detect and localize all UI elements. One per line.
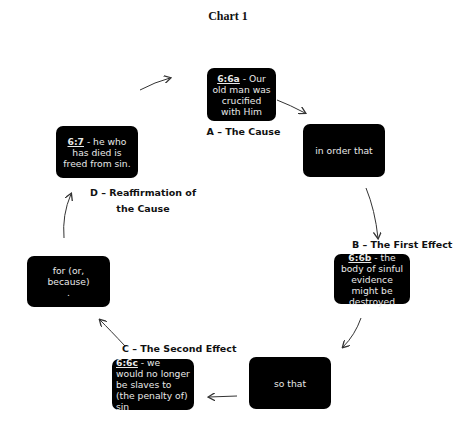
node-c-second-effect: 6:6c - we would no longer be slaves to (… [112, 359, 194, 410]
verse-ref: 6:6a [217, 73, 240, 84]
node-b-first-effect: 6:6b - the body of sinful evidence might… [334, 254, 410, 304]
node-a-cause: 6:6a - Our old man was crucified with Hi… [207, 68, 276, 121]
verse-ref: 6:6b [348, 252, 371, 263]
node-text: for (or, because) [31, 265, 106, 287]
label-d-reaffirmation-line2: the Cause [88, 200, 198, 217]
verse-ref: 6:7 [68, 136, 84, 147]
node-in-order-that: in order that [303, 124, 385, 177]
node-text: in order that [315, 145, 372, 156]
label-d-reaffirmation-line1: D – Reaffirmation of [88, 184, 198, 201]
cycle-arrows [0, 0, 456, 435]
arrow-so-that-to-c [209, 396, 237, 397]
arrow-d-to-a [140, 78, 170, 90]
arrow-for-to-d [64, 194, 71, 238]
arrow-b-to-so-that [343, 318, 361, 347]
node-d-reaffirmation: 6:7 - he who has died is freed from sin. [56, 126, 138, 178]
label-a-cause: A – The Cause [206, 123, 281, 140]
node-dot: . [67, 287, 70, 298]
node-text: so that [274, 378, 306, 389]
arrow-in-order-that-to-b [366, 188, 378, 238]
arrow-a-to-in-order-that [277, 100, 305, 113]
label-c-second-effect: C – The Second Effect [122, 340, 226, 357]
verse-ref: 6:6c [116, 357, 138, 368]
label-b-first-effect: B – The First Effect [352, 236, 452, 253]
node-for-because: for (or, because) . [27, 256, 110, 307]
node-so-that: so that [249, 357, 331, 409]
